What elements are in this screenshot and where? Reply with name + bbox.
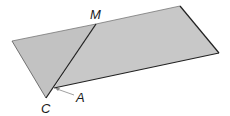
- label-c: C: [41, 101, 51, 116]
- label-a: A: [75, 90, 85, 105]
- folded-paper-diagram: M A C: [0, 0, 230, 116]
- pointer-arrow-a: [57, 89, 74, 95]
- label-m: M: [90, 7, 101, 22]
